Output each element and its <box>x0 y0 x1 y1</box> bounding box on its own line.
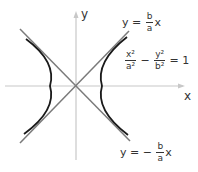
fraction-x2-over-a2: x² a² <box>125 50 136 71</box>
asymptote-positive-rhs: x <box>154 16 161 29</box>
frac-denominator: a <box>147 23 153 33</box>
equation-rhs: = 1 <box>170 54 190 67</box>
asymptote-positive-lhs: y = <box>122 16 141 29</box>
x-axis-label: x <box>184 90 191 102</box>
frac-denominator: b² <box>155 61 164 71</box>
y-axis-label: y <box>81 8 88 20</box>
asymptote-negative-label: y = − b a x <box>120 142 172 163</box>
frac-denominator: a² <box>126 61 135 71</box>
frac-numerator: x² <box>125 50 136 61</box>
asymptote-negative-rhs: x <box>165 146 172 159</box>
y-axis-arrow-icon <box>74 11 79 18</box>
hyperbola-equation: x² a² − y² b² = 1 <box>124 50 189 71</box>
frac-denominator: a <box>158 153 164 163</box>
fraction-b-over-a: b a <box>146 12 154 33</box>
asymptote-positive-label: y = b a x <box>122 12 161 33</box>
fraction-y2-over-b2: y² b² <box>154 50 165 71</box>
frac-numerator: y² <box>154 50 165 61</box>
x-axis-arrow-icon <box>178 84 185 89</box>
frac-numerator: b <box>146 12 154 23</box>
asymptote-negative-lhs: y = − <box>120 146 152 159</box>
fraction-b-over-a: b a <box>156 142 164 163</box>
equation-operator: − <box>140 54 149 67</box>
frac-numerator: b <box>156 142 164 153</box>
